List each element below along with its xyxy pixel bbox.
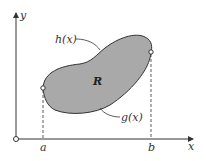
tick-a-label: a: [40, 141, 47, 154]
point-b: [149, 50, 153, 54]
point-a: [41, 86, 45, 90]
h-pointer: [76, 39, 100, 50]
tick-b-label: b: [148, 141, 155, 154]
region-diagram: y x a b h(x) g(x) R: [0, 0, 206, 161]
x-axis-label: x: [188, 140, 195, 153]
y-axis-label: y: [19, 9, 27, 22]
g-pointer: [100, 108, 120, 117]
region-label: R: [92, 75, 102, 88]
h-curve-label: h(x): [55, 33, 77, 46]
g-curve-label: g(x): [121, 111, 143, 124]
origin-point: [14, 137, 19, 142]
